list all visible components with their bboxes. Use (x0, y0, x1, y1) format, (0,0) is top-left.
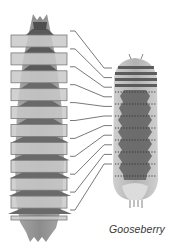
comparison-strip (11, 53, 67, 65)
connector-line (70, 116, 112, 121)
comparison-strip (11, 216, 67, 220)
right-head-band (115, 78, 157, 81)
comparison-strip (11, 196, 67, 208)
comparison-strip (11, 160, 67, 172)
connector-line (70, 49, 112, 78)
right-head-band (118, 66, 154, 69)
comparison-strip (11, 71, 67, 83)
left-larva (8, 14, 72, 242)
right-larva-antenna-right (141, 54, 143, 59)
comparison-strip (11, 142, 67, 154)
connector-line (70, 126, 112, 139)
right-head-band (115, 84, 157, 87)
right-larva (113, 54, 158, 208)
connector-line (70, 85, 112, 97)
connector-line (70, 31, 112, 68)
left-dark-band (8, 208, 72, 214)
right-larva-antenna-left (129, 54, 131, 59)
comparison-strip (11, 178, 67, 190)
connector-line (70, 135, 112, 156)
figure-caption: Gooseberry (106, 223, 168, 235)
comparison-strip (11, 35, 67, 47)
larva-comparison-diagram (0, 0, 171, 247)
left-head-band (33, 22, 47, 30)
right-larva-legs (130, 200, 142, 208)
right-head-band (115, 72, 157, 75)
comparison-strip (11, 125, 67, 137)
comparison-strip (11, 107, 67, 119)
right-larva-dark-core (118, 90, 152, 180)
connector-line (70, 145, 112, 174)
connector-line (70, 67, 112, 87)
connector-lines (70, 31, 112, 210)
comparison-strip (11, 89, 67, 101)
connector-line (70, 103, 112, 107)
